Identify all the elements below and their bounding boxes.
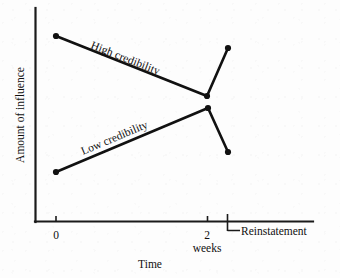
data-point-high-2 xyxy=(204,93,210,99)
data-point-low-0 xyxy=(53,169,59,175)
data-point-low-reinstatement xyxy=(225,149,231,155)
data-point-high-0 xyxy=(53,33,59,39)
x-tick-label-2: 2 xyxy=(204,229,210,241)
series-label-high-credibility: High credibility xyxy=(89,39,162,78)
series-line-low-credibility xyxy=(56,108,228,172)
data-point-high-reinstatement xyxy=(225,45,231,51)
chart-svg: High credibility Low credibility 0 2 wee… xyxy=(0,0,340,278)
chart-figure: High credibility Low credibility 0 2 wee… xyxy=(0,0,340,278)
x-tick-sublabel-weeks: weeks xyxy=(193,242,222,254)
x-axis-title: Time xyxy=(138,258,162,270)
annotation-reinstatement: Reinstatement xyxy=(241,225,308,237)
y-axis-title: Amount of influence xyxy=(14,67,26,163)
data-point-low-2 xyxy=(205,105,211,111)
x-tick-label-0: 0 xyxy=(53,229,59,241)
